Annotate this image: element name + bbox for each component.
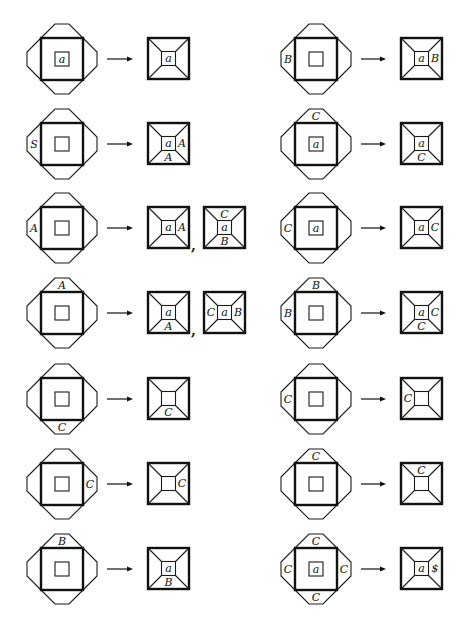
base-square: [41, 123, 83, 165]
right-region-label: B: [233, 306, 242, 319]
diagonal-line: [232, 320, 246, 334]
arrow-icon: [107, 142, 133, 147]
inner-label: a: [165, 221, 172, 234]
envelope-net: BB: [281, 278, 351, 348]
diagonal-line: [148, 378, 162, 392]
diagonal-line: [148, 38, 162, 52]
rule-5-right: CC: [281, 364, 442, 434]
diagonal-line: [401, 151, 415, 165]
envelope-net: C: [27, 449, 97, 519]
arrow-icon: [361, 397, 386, 402]
envelope-net: A: [27, 278, 97, 348]
inner-square: [55, 137, 69, 151]
diagonal-line: [429, 151, 443, 165]
diagonal-line: [429, 576, 443, 590]
inner-square: [55, 306, 69, 320]
inner-label: a: [165, 306, 172, 319]
diagonal-line: [401, 66, 415, 80]
left-flap-label: C: [284, 222, 293, 235]
top-flap-label: C: [312, 110, 321, 123]
diagonal-line: [148, 207, 162, 221]
diagonal-line: [401, 463, 415, 477]
rule-4-right: BBaCC: [281, 278, 442, 348]
envelope-net: aC: [281, 193, 351, 263]
diagonal-line: [176, 320, 190, 334]
inner-square: [55, 562, 69, 576]
left-flap-label: B: [283, 53, 292, 66]
envelope-net: C: [281, 449, 351, 519]
left-flap-label: C: [284, 563, 293, 576]
inner-label: a: [165, 137, 172, 150]
rule-5-left: CC: [27, 364, 189, 434]
inner-square: [415, 392, 429, 406]
diagonal-line: [176, 463, 190, 477]
diagonal-line: [176, 406, 190, 420]
diagonal-line: [429, 406, 443, 420]
inner-label: a: [221, 221, 228, 234]
inner-label: a: [313, 563, 320, 576]
diagonal-line: [401, 576, 415, 590]
diagonal-line: [401, 378, 415, 392]
arrow-icon: [107, 482, 133, 487]
folded-square: aAA: [148, 123, 189, 164]
arrow-icon: [107, 567, 133, 572]
rule-2-right: aCaC: [281, 109, 442, 179]
top-flap-label: C: [312, 450, 321, 463]
folded-square: C: [401, 463, 442, 504]
diagonal-line: [204, 292, 218, 306]
diagonal-line: [148, 463, 162, 477]
envelope-net: B: [27, 534, 97, 604]
folded-square: aC: [401, 123, 442, 164]
folded-square: aCB: [204, 292, 245, 333]
top-region-label: C: [220, 208, 229, 221]
inner-label: a: [59, 53, 66, 66]
inner-label: a: [313, 138, 320, 151]
rule-3-left: AaA,aCB: [27, 193, 245, 263]
diagonal-line: [148, 548, 162, 562]
folded-square: C: [401, 378, 442, 419]
diagonal-line: [148, 491, 162, 505]
arrow-icon: [361, 57, 386, 62]
diagonal-line: [176, 66, 190, 80]
diagonal-line: [429, 207, 443, 221]
right-region-label: B: [430, 52, 439, 65]
diagonal-line: [176, 292, 190, 306]
envelope-net: S: [27, 109, 97, 179]
base-square: [41, 548, 83, 590]
left-flap-label: S: [30, 138, 38, 151]
arrow-icon: [361, 226, 386, 231]
base-square: [295, 38, 337, 80]
diagonal-line: [204, 235, 218, 249]
folded-square: a: [148, 38, 189, 79]
folded-square: aA: [148, 207, 189, 248]
diagonal-line: [401, 548, 415, 562]
diagonal-line: [429, 320, 443, 334]
diagonal-line: [401, 406, 415, 420]
diagonal-line: [401, 320, 415, 334]
base-square: [41, 463, 83, 505]
bottom-flap-label: C: [58, 421, 67, 434]
arrow-icon: [107, 397, 133, 402]
rule-4-left: AaA,aCB: [27, 278, 245, 348]
arrow-icon: [361, 567, 386, 572]
diagonal-line: [148, 576, 162, 590]
folded-square: C: [148, 378, 189, 419]
envelope-net: aC: [281, 109, 351, 179]
diagonal-line: [232, 235, 246, 249]
inner-square: [309, 52, 323, 66]
base-square: [295, 292, 337, 334]
folded-square: aA: [148, 292, 189, 333]
diagonal-line: [148, 320, 162, 334]
top-flap-label: B: [311, 279, 320, 292]
inner-label: a: [418, 306, 425, 319]
diagonal-line: [429, 66, 443, 80]
right-region-label: A: [177, 137, 186, 150]
base-square: [41, 292, 83, 334]
inner-square: [162, 477, 176, 491]
inner-square: [55, 477, 69, 491]
top-flap-label: A: [57, 279, 66, 292]
right-region-label: C: [431, 306, 440, 319]
inner-square: [415, 477, 429, 491]
diagonal-line: [176, 151, 190, 165]
inner-square: [309, 306, 323, 320]
